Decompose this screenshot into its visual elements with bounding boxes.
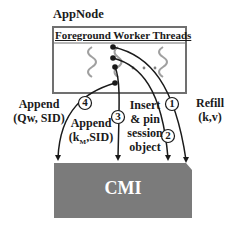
insert-label-line2: & pin — [125, 113, 165, 126]
refill-label: Refill — [190, 97, 230, 110]
append-qw-label: Append — [14, 98, 64, 111]
thread-wave-icon — [88, 47, 96, 77]
refill-args: (k,v) — [190, 111, 230, 124]
arrowhead-icon — [183, 157, 189, 163]
step-1-number: 1 — [166, 97, 178, 110]
arrowhead-icon — [165, 155, 171, 161]
arrowhead-icon — [115, 155, 121, 161]
thread-wave-icon — [115, 47, 122, 77]
insert-label-line3: session — [125, 127, 165, 140]
ellipsis-dot — [143, 67, 146, 70]
insert-label-line1: Insert — [125, 99, 165, 112]
append-qw-args: (Qw, SID) — [8, 112, 70, 125]
cmi-label: CMI — [54, 178, 192, 199]
step-4-number: 4 — [79, 96, 91, 109]
thread-dot — [110, 55, 116, 61]
thread-dot — [110, 44, 116, 50]
thread-dot — [112, 80, 118, 86]
ellipsis-dot — [154, 67, 157, 70]
arrowhead-icon — [55, 155, 61, 161]
append-km-label: Append — [68, 117, 114, 130]
insert-label-line4: object — [125, 141, 165, 154]
thread-wave-icon — [159, 47, 167, 77]
append-km-args: (kM,SID) — [66, 131, 116, 149]
thread-dot — [112, 64, 118, 70]
